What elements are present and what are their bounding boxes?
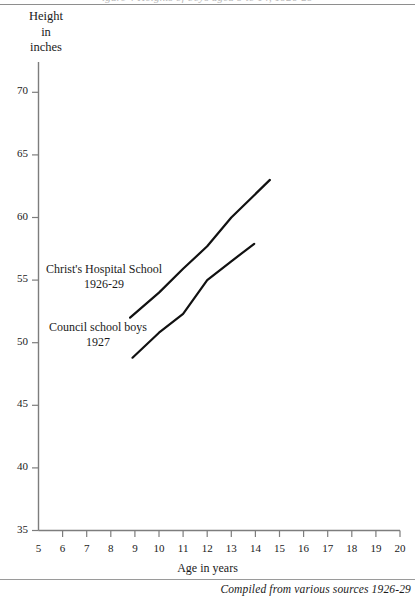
x-tick-label: 19	[370, 542, 382, 554]
axis-lines	[39, 62, 401, 531]
x-tick-label: 16	[298, 542, 310, 554]
y-tick-label: 50	[17, 335, 29, 347]
y-tick-label: 70	[17, 84, 29, 96]
x-tick-label: 20	[395, 542, 407, 554]
x-tick-label: 14	[250, 542, 262, 554]
x-axis-title: Age in years	[0, 561, 415, 576]
y-tick-label: 65	[17, 147, 29, 159]
x-tick-label: 9	[132, 542, 138, 554]
x-tick-label: 13	[226, 542, 238, 554]
x-tick-label: 12	[202, 542, 213, 554]
y-tick-label: 35	[17, 523, 29, 535]
x-tick-label: 7	[84, 542, 90, 554]
y-tick-label: 45	[17, 397, 29, 409]
y-tick-marks: 7065605550454035	[17, 84, 39, 534]
x-tick-label: 18	[346, 542, 358, 554]
x-tick-label: 15	[274, 542, 286, 554]
y-tick-label: 60	[17, 210, 29, 222]
series-label-christs-hospital: Christ's Hospital School 1926-29	[38, 262, 170, 292]
series-label-council-boys: Council school boys 1927	[38, 320, 158, 350]
x-tick-marks: 567891011121314151617181920	[36, 531, 406, 555]
footer-divider	[0, 579, 415, 580]
y-tick-label: 55	[17, 272, 29, 284]
source-caption: Compiled from various sources 1926-29	[220, 583, 411, 595]
x-tick-label: 8	[108, 542, 114, 554]
x-tick-label: 5	[36, 542, 42, 554]
x-tick-label: 6	[60, 542, 66, 554]
x-tick-label: 10	[154, 542, 166, 554]
x-tick-label: 17	[322, 542, 334, 554]
y-tick-label: 40	[17, 460, 29, 472]
x-tick-label: 11	[178, 542, 189, 554]
